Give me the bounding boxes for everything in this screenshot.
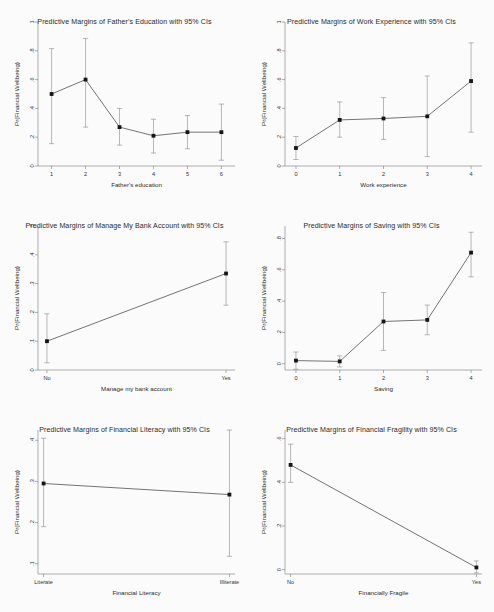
y-tick-label: .2 <box>29 135 35 140</box>
y-tick-label: 0 <box>276 164 282 167</box>
x-tick-label: Illiterate <box>220 579 240 585</box>
x-axis-title: Father's education <box>111 181 162 188</box>
x-tick-label: 6 <box>220 171 223 177</box>
y-tick-label: .2 <box>276 330 282 335</box>
x-tick-label: 4 <box>469 375 472 381</box>
y-tick-label: .2 <box>276 524 282 529</box>
y-axis-title: Pr(Financial Wellbeing) <box>13 470 20 534</box>
y-axis-title: Pr(Financial Wellbeing) <box>260 266 267 330</box>
y-axis-title: Pr(Financial Wellbeing) <box>13 62 20 126</box>
y-tick-label: 0 <box>276 362 282 365</box>
data-point-marker <box>294 146 298 150</box>
y-tick-label: 0 <box>29 368 35 371</box>
panel-fathers-education: Predictive Margins of Father's Education… <box>0 0 247 204</box>
data-point-marker <box>469 251 473 255</box>
x-axis-title: Financially Fragile <box>359 589 409 596</box>
y-tick-label: .2 <box>29 520 35 525</box>
x-tick-label: 4 <box>152 171 155 177</box>
x-tick-label: 2 <box>84 171 87 177</box>
panel-inner-5: Predictive Margins of Financial Literacy… <box>8 422 241 602</box>
x-tick-label: No <box>287 579 294 585</box>
plot-area-6: 0.2.4.6NoYesFinancially FragilePr(Financ… <box>255 422 488 602</box>
y-tick-label: 0 <box>29 164 35 167</box>
y-tick-label: .4 <box>29 438 35 443</box>
series-line <box>44 483 230 494</box>
panel-grid: Predictive Margins of Father's Education… <box>0 0 494 612</box>
y-tick-label: .4 <box>276 480 282 485</box>
y-tick-label: 1 <box>276 20 282 23</box>
x-tick-label: 2 <box>382 171 385 177</box>
data-point-marker <box>186 130 190 134</box>
data-point-marker <box>338 118 342 122</box>
y-tick-label: .6 <box>29 77 35 82</box>
x-tick-label: 1 <box>338 375 341 381</box>
y-tick-label: .2 <box>276 135 282 140</box>
x-tick-label: 1 <box>50 171 53 177</box>
panel-inner-4: Predictive Margins of Saving with 95% CI… <box>255 218 488 398</box>
y-axis-title: Pr(Financial Wellbeing) <box>13 266 20 330</box>
panel-inner-3: Predictive Margins of Manage My Bank Acc… <box>8 218 241 398</box>
x-tick-label: 1 <box>338 171 341 177</box>
predictive-margins-figure-sheet: Predictive Margins of Father's Education… <box>0 0 494 612</box>
panel-work-experience: Predictive Margins of Work Experience wi… <box>247 0 494 204</box>
plot-area-5: .1.2.3.4LiterateIlliterateFinancial Lite… <box>8 422 241 602</box>
x-tick-label: 3 <box>426 375 429 381</box>
data-point-marker <box>228 493 232 497</box>
data-point-marker <box>220 130 224 134</box>
y-axis-title: Pr(Financial Wellbeing) <box>260 62 267 126</box>
data-point-marker <box>152 134 156 138</box>
data-point-marker <box>84 78 88 82</box>
x-tick-label: Yes <box>472 579 481 585</box>
series-line <box>291 465 477 568</box>
y-tick-label: .1 <box>29 561 35 566</box>
series-line <box>47 274 226 342</box>
y-tick-label: .4 <box>276 106 282 111</box>
panel-financial-fragility: Predictive Margins of Financial Fragilit… <box>247 408 494 612</box>
y-tick-label: .6 <box>276 436 282 441</box>
panel-inner-1: Predictive Margins of Father's Education… <box>8 14 241 194</box>
plot-area-3: 0.1.2.3.4.5NoYesManage my bank accountPr… <box>8 218 241 398</box>
panel-saving: Predictive Margins of Saving with 95% CI… <box>247 204 494 408</box>
x-tick-label: 0 <box>294 171 297 177</box>
y-tick-label: .6 <box>276 267 282 272</box>
y-tick-label: .2 <box>29 310 35 315</box>
data-point-marker <box>294 359 298 363</box>
x-axis-title: Work experience <box>360 181 407 188</box>
data-point-marker <box>425 114 429 118</box>
y-tick-label: .5 <box>29 224 35 229</box>
x-axis-title: Manage my bank account <box>101 385 172 392</box>
y-tick-label: 0 <box>276 568 282 571</box>
x-axis-title: Financial Literacy <box>112 589 161 596</box>
panel-manage-bank-account: Predictive Margins of Manage My Bank Acc… <box>0 204 247 408</box>
y-tick-label: .1 <box>29 339 35 344</box>
data-point-marker <box>382 117 386 121</box>
data-point-marker <box>224 272 228 276</box>
x-tick-label: No <box>43 375 50 381</box>
data-point-marker <box>382 320 386 324</box>
data-point-marker <box>118 125 122 129</box>
panel-inner-2: Predictive Margins of Work Experience wi… <box>255 14 488 194</box>
data-point-marker <box>289 463 293 467</box>
x-axis-title: Saving <box>374 385 393 392</box>
x-tick-label: 3 <box>426 171 429 177</box>
y-tick-label: .8 <box>276 236 282 241</box>
x-tick-label: 2 <box>382 375 385 381</box>
y-tick-label: .8 <box>276 48 282 53</box>
plot-area-1: 0.2.4.6.81123456Father's educationPr(Fin… <box>8 14 241 194</box>
plot-area-4: 0.2.4.6.801234SavingPr(Financial Wellbei… <box>255 218 488 398</box>
data-point-marker <box>338 359 342 363</box>
y-axis-title: Pr(Financial Wellbeing) <box>260 470 267 534</box>
x-tick-label: Literate <box>34 579 53 585</box>
y-tick-label: .8 <box>29 48 35 53</box>
data-point-marker <box>475 566 479 570</box>
x-tick-label: 0 <box>294 375 297 381</box>
series-line <box>52 80 222 136</box>
data-point-marker <box>42 482 46 486</box>
y-tick-label: .4 <box>29 252 35 257</box>
plot-area-2: 0.2.4.6.8101234Work experiencePr(Financi… <box>255 14 488 194</box>
x-tick-label: 3 <box>118 171 121 177</box>
y-tick-label: .4 <box>276 299 282 304</box>
panel-financial-literacy: Predictive Margins of Financial Literacy… <box>0 408 247 612</box>
data-point-marker <box>45 339 49 343</box>
y-tick-label: .4 <box>29 106 35 111</box>
